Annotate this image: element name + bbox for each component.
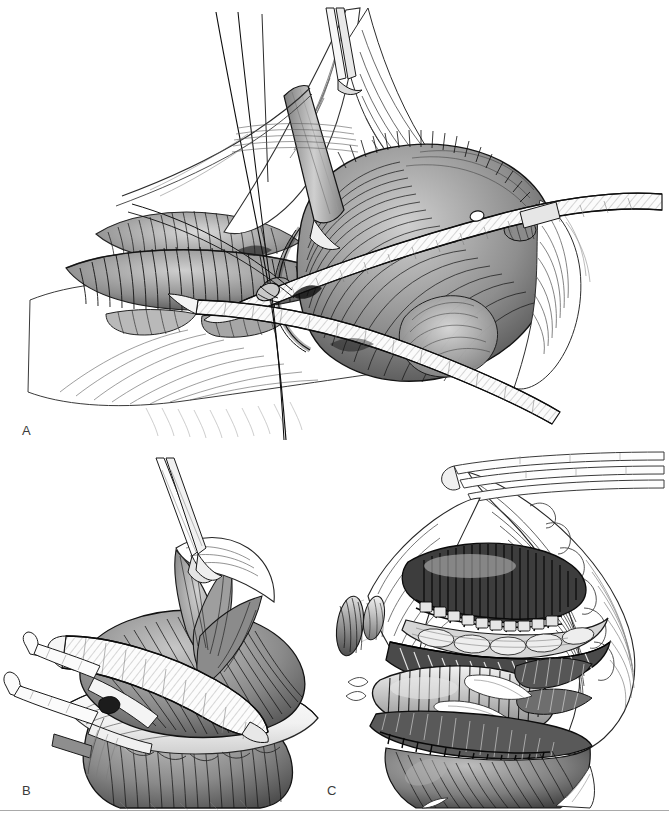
panel-label-b: B (22, 784, 31, 797)
figure-root: A (0, 0, 669, 819)
panel-a-illustration (0, 0, 669, 450)
panel-label-a: A (22, 424, 31, 437)
footer-divider-rule (0, 810, 669, 811)
panel-label-c: C (327, 784, 337, 797)
panel-c-illustration (320, 450, 669, 810)
panel-b-illustration (0, 450, 330, 810)
